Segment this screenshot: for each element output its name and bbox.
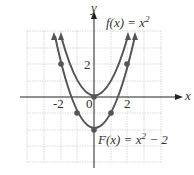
- x-axis-arrow-icon: [175, 94, 183, 100]
- arrow-icon: [58, 32, 64, 40]
- label-f: f(x) = x2: [106, 14, 150, 30]
- arrow-icon: [125, 32, 131, 40]
- label-F: F(x) = x2 − 2: [97, 131, 168, 147]
- arrow-icon: [51, 32, 57, 40]
- arrow-icon: [132, 32, 138, 40]
- x-axis-label: x: [184, 88, 191, 103]
- tick-y-2: 2: [84, 57, 91, 72]
- y-axis-label: y: [89, 0, 97, 15]
- tick-x-2: 2: [124, 96, 131, 111]
- tick-x-neg2: -2: [53, 96, 64, 111]
- graph: x y -2 0 2 2 f(x) = x2 F(x) = x2 − 2: [0, 0, 194, 175]
